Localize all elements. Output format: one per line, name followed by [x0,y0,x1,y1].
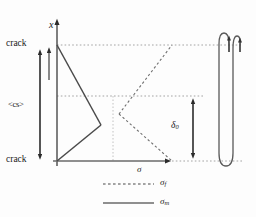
delta-zero-subscript: 0 [175,123,178,130]
crack-label-top: crack [6,39,27,49]
legend-label-sigma-f: σf [160,178,166,188]
diagram-canvas [0,0,256,217]
crack-spacing-label: <cs> [8,100,23,109]
legend-sigma-m-subscript: m [164,199,169,206]
x-axis-label: σ [137,165,141,174]
crack-label-bottom: crack [6,155,27,165]
sigma-f-curve [119,45,172,161]
legend-sigma-f-subscript: f [164,180,166,187]
sigma-m-curve [57,45,101,161]
legend-label-sigma-m: σm [160,197,169,207]
fiber-hairpin-shape [219,33,240,166]
delta-zero-label: δ0 [171,121,179,131]
y-axis-label: x [49,20,53,30]
fiber-top-arrows [229,38,240,52]
figure-container: x crack <cs> crack σ δ0 σf σm [0,0,256,217]
